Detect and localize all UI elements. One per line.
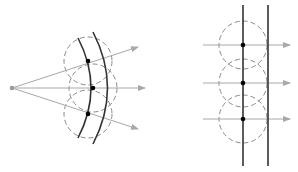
secondary-source-point bbox=[241, 43, 246, 48]
secondary-source-point bbox=[241, 117, 246, 122]
secondary-source-point bbox=[241, 81, 246, 86]
secondary-source-point bbox=[91, 86, 96, 91]
plane-wave-panel bbox=[203, 5, 290, 166]
point-source bbox=[10, 86, 15, 91]
secondary-source-point bbox=[86, 59, 91, 64]
spherical-wave-panel bbox=[10, 32, 145, 144]
huygens-principle-diagram bbox=[0, 0, 298, 172]
ray-arrow bbox=[12, 47, 138, 88]
secondary-source-point bbox=[86, 112, 91, 117]
diagram-canvas bbox=[0, 0, 298, 172]
